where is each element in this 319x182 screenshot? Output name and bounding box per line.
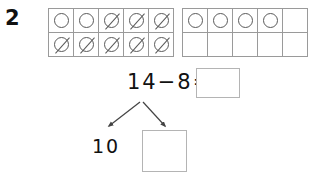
decomposition-arrows [95,98,195,134]
frame-cell [74,9,99,33]
frame-cell [149,9,174,33]
minuend-ten-frame [48,8,174,57]
counter-circle-crossed-icon [129,13,144,28]
frame-cell [258,9,283,33]
frame-cell [99,33,124,57]
remainder-ten-frame [182,8,308,57]
counter-circle-icon [213,13,228,28]
counter-circle-crossed-icon [104,37,119,52]
frame-cell [208,33,233,57]
decomposition-left-part: 10 [92,134,120,158]
frame-cell [183,33,208,57]
frame-cell [258,33,283,57]
worksheet-page: 2 [0,0,319,182]
frame-cell [183,9,208,33]
question-number: 2 [5,8,20,29]
frame-cell [149,33,174,57]
frame-cell [74,33,99,57]
frame-cell [233,9,258,33]
frame-cell [283,33,308,57]
equation-answer-box[interactable] [196,68,240,98]
frame-cell [124,33,149,57]
counter-circle-icon [79,13,94,28]
counter-circle-crossed-icon [104,13,119,28]
counter-circle-crossed-icon [154,13,169,28]
frame-cell [49,33,74,57]
frame-cell [283,9,308,33]
frame-cell [208,9,233,33]
counter-circle-icon [238,13,253,28]
counter-circle-crossed-icon [129,37,144,52]
frame-cell [233,33,258,57]
counter-circle-crossed-icon [79,37,94,52]
frame-cell [124,9,149,33]
counter-circle-icon [263,13,278,28]
frame-cell [49,9,74,33]
counter-circle-crossed-icon [54,37,69,52]
decomposition-right-part-box[interactable] [142,130,187,172]
counter-circle-icon [54,13,69,28]
counter-circle-icon [188,13,203,28]
frame-cell [99,9,124,33]
counter-circle-crossed-icon [154,37,169,52]
